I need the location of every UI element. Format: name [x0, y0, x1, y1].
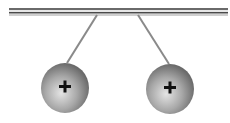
right-sphere [146, 64, 194, 114]
rod [9, 8, 228, 16]
right-string [138, 15, 169, 64]
left-sphere [41, 63, 89, 113]
left-string [67, 15, 97, 63]
charged-spheres-diagram [0, 0, 230, 123]
